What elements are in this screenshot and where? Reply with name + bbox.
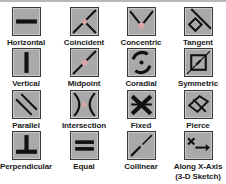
pierce-icon (184, 90, 213, 119)
constraint-equal[interactable]: Equal (56, 131, 112, 172)
equal-icon (70, 131, 99, 160)
constraint-label: Parallel (0, 121, 54, 131)
constraint-along-x-axis[interactable]: Along X-Axis (3-D Sketch) (170, 131, 226, 182)
constraint-symmetric[interactable]: Symmetric (170, 48, 226, 89)
tangent-icon (184, 7, 213, 36)
constraint-collinear[interactable]: Collinear (113, 131, 169, 172)
constraint-parallel[interactable]: Parallel (0, 90, 54, 131)
constraint-horizontal[interactable]: Horizontal (0, 7, 54, 48)
constraint-label: Fixed (113, 121, 169, 131)
constraint-pierce[interactable]: Pierce (170, 90, 226, 131)
concentric-icon (127, 7, 156, 36)
constraint-label: Midpoint (56, 79, 112, 89)
constraint-label: Concentric (113, 38, 169, 48)
top-border (0, 0, 226, 2)
constraint-label: Collinear (113, 162, 169, 172)
constraint-coradial[interactable]: Coradial (113, 48, 169, 89)
constraint-label: Along X-Axis (170, 162, 226, 172)
horizontal-icon (12, 7, 41, 36)
fixed-icon (127, 90, 156, 119)
constraint-label: Perpendicular (0, 162, 54, 172)
constraint-intersection[interactable]: Intersection (56, 90, 112, 131)
midpoint-icon (70, 48, 99, 77)
intersection-icon (70, 90, 99, 119)
parallel-icon (12, 90, 41, 119)
constraint-perpendicular[interactable]: Perpendicular (0, 131, 54, 172)
constraint-label: Coradial (113, 79, 169, 89)
constraint-label: Tangent (170, 38, 226, 48)
constraint-label: Coincident (56, 38, 112, 48)
constraint-coincident[interactable]: Coincident (56, 7, 112, 48)
constraint-label: Pierce (170, 121, 226, 131)
constraint-label-subtitle: (3-D Sketch) (170, 172, 226, 182)
constraint-label: Intersection (56, 121, 112, 131)
vertical-icon (12, 48, 41, 77)
constraint-fixed[interactable]: Fixed (113, 90, 169, 131)
constraint-label: Symmetric (170, 79, 226, 89)
along-x-axis-icon (184, 131, 213, 160)
constraint-vertical[interactable]: Vertical (0, 48, 54, 89)
constraint-label: Equal (56, 162, 112, 172)
constraint-midpoint[interactable]: Midpoint (56, 48, 112, 89)
collinear-icon (127, 131, 156, 160)
perpendicular-icon (12, 131, 41, 160)
constraint-label: Vertical (0, 79, 54, 89)
symmetric-icon (184, 48, 213, 77)
coincident-icon (70, 7, 99, 36)
constraint-concentric[interactable]: Concentric (113, 7, 169, 48)
constraint-label: Horizontal (0, 38, 54, 48)
coradial-icon (127, 48, 156, 77)
constraint-tangent[interactable]: Tangent (170, 7, 226, 48)
